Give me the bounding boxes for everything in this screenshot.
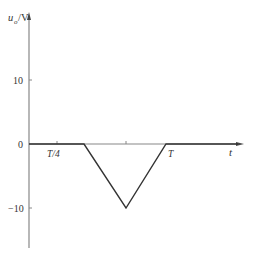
x-axis-label: t: [229, 146, 233, 158]
chart: u o /V t 10 0 −10 T/4 T: [0, 0, 253, 256]
tick-label-T: T: [168, 149, 174, 159]
tick-label-0: 0: [18, 139, 23, 150]
y-axis-label-unit: /V: [18, 12, 29, 23]
waveform-line: [29, 144, 238, 208]
chart-svg: u o /V t 10 0 −10 T/4 T: [0, 0, 253, 256]
y-axis-label-main: u: [8, 12, 13, 23]
tick-label-neg10: −10: [8, 203, 24, 214]
tick-label-10: 10: [13, 75, 23, 86]
tick-label-T4: T/4: [47, 149, 60, 159]
